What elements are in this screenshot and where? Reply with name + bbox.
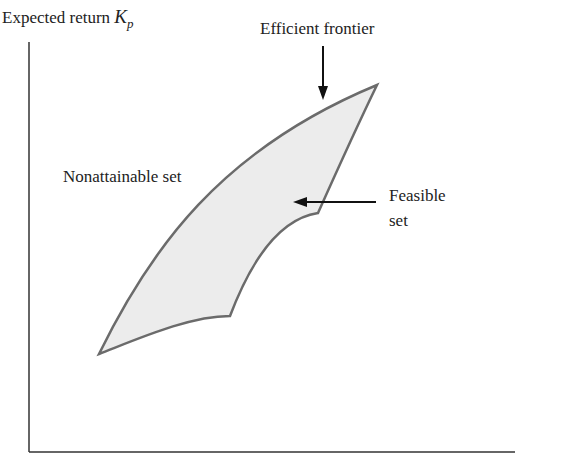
feasible-label-line2: set bbox=[389, 208, 446, 233]
y-axis-symbol: K bbox=[114, 6, 127, 27]
feasible-set-arrow bbox=[293, 197, 376, 207]
y-axis-label-text: Expected return bbox=[2, 8, 110, 27]
y-axis-subscript: p bbox=[127, 16, 134, 31]
diagram-canvas bbox=[0, 0, 588, 473]
efficient-frontier-arrow bbox=[318, 46, 328, 100]
y-axis-label: Expected return Kp bbox=[2, 6, 134, 32]
nonattainable-set-label: Nonattainable set bbox=[63, 167, 182, 187]
feasible-set-label: Feasible set bbox=[389, 183, 446, 233]
efficient-frontier-label: Efficient frontier bbox=[260, 19, 374, 39]
feasible-set-region bbox=[99, 85, 377, 354]
feasible-label-line1: Feasible bbox=[389, 183, 446, 208]
